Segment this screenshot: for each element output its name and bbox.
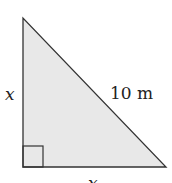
bottom-leg-label: x xyxy=(88,173,98,183)
left-leg-label: x xyxy=(5,84,15,104)
hypotenuse-label: 10 m xyxy=(110,83,153,103)
triangle-diagram: x 10 m x xyxy=(0,0,172,183)
